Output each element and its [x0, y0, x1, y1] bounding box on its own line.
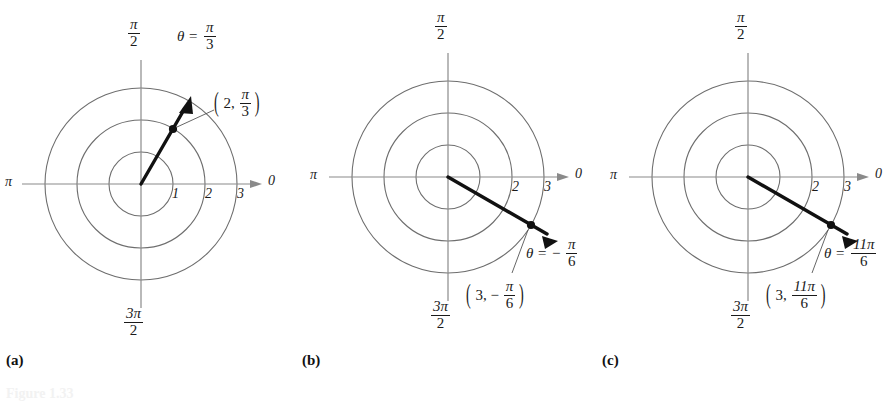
- plotted-point-a: [169, 125, 177, 133]
- point-label-c: ( 3, 11π 6 ): [766, 280, 825, 312]
- axis-label-pi-c: π: [610, 168, 617, 182]
- polar-grid-c: [596, 0, 896, 397]
- figure-number-caption: Figure 1.33: [6, 386, 73, 402]
- polar-grid-b: [300, 0, 600, 397]
- terminal-ray-a: [141, 108, 185, 184]
- axis-label-three-half-pi-b: 3π 2: [431, 300, 450, 332]
- angle-label-b: θ = − π 6: [526, 238, 577, 270]
- axis-label-three-half-pi-a: 3π 2: [124, 307, 143, 339]
- polar-plot-panel-b: π 2 3π 2 π 0 2 3 θ = − π 6 ( 3, − π: [300, 0, 600, 397]
- point-label-a: ( 2, π 3 ): [214, 88, 260, 120]
- axis-label-three-half-pi-c: 3π 2: [731, 300, 750, 332]
- polar-plot-panel-c: π 2 3π 2 π 0 2 3 θ = 11π 6 ( 3, 11π 6: [596, 0, 896, 397]
- radial-tick-2-b: 2: [512, 180, 519, 194]
- axis-label-zero-b: 0: [575, 167, 582, 181]
- axis-label-zero-a: 0: [268, 174, 275, 188]
- radial-tick-1-a: 1: [172, 187, 179, 201]
- angle-label-a: θ = π 3: [177, 21, 216, 53]
- radial-tick-3-b: 3: [544, 180, 551, 194]
- axis-label-pi-a: π: [5, 175, 12, 189]
- plotted-point-b: [527, 221, 535, 229]
- polar-plot-panel-a: π 2 3π 2 π 0 1 2 3 θ = π 3 (: [0, 0, 300, 397]
- point-label-b: ( 3, − π 6 ): [466, 280, 524, 312]
- panel-caption-a: (a): [6, 352, 24, 369]
- polar-grid-a: [0, 0, 300, 397]
- radial-tick-2-c: 2: [812, 180, 819, 194]
- axis-label-zero-c: 0: [875, 167, 882, 181]
- radial-tick-3-c: 3: [844, 180, 851, 194]
- axis-label-half-pi-c: π 2: [735, 11, 747, 43]
- radial-tick-3-a: 3: [237, 187, 244, 201]
- polar-axis-arrowhead-a: [250, 180, 262, 188]
- axis-label-half-pi-b: π 2: [435, 11, 447, 43]
- radial-tick-2-a: 2: [205, 187, 212, 201]
- panel-caption-b: (b): [302, 352, 320, 369]
- axis-label-pi-b: π: [310, 168, 317, 182]
- angle-label-c: θ = 11π 6: [824, 238, 876, 270]
- panel-caption-c: (c): [602, 352, 619, 369]
- polar-axis-arrowhead-b: [557, 173, 569, 181]
- axis-label-half-pi-a: π 2: [128, 18, 140, 50]
- polar-axis-arrowhead-c: [857, 173, 869, 181]
- plotted-point-c: [827, 221, 835, 229]
